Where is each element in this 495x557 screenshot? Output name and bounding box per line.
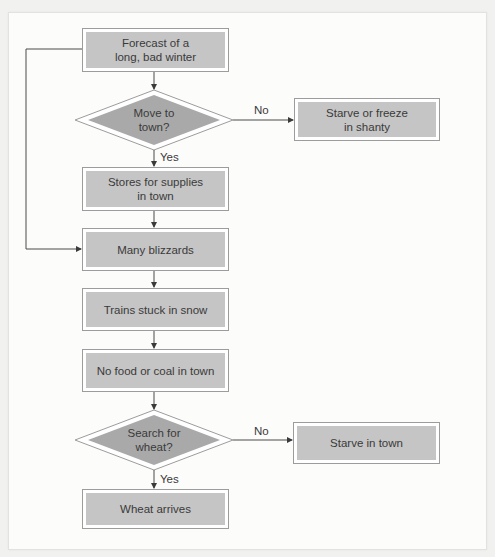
node-move-to-town-line2: town? [134,120,175,134]
edge-label-search-yes: Yes [160,473,179,485]
edge-label-move-no: No [254,104,269,116]
node-forecast-line1: Forecast of a [115,36,196,50]
node-blizzards-label: Many blizzards [86,232,225,267]
node-move-to-town-line1: Move to [134,106,175,120]
edge-label-search-no: No [254,425,269,437]
node-forecast: Forecast of a long, bad winter [82,28,229,72]
node-stores-line1: Stores for supplies [108,175,203,189]
node-stores-line2: in town [108,189,203,203]
node-blizzards: Many blizzards [82,228,229,271]
node-forecast-line2: long, bad winter [115,50,196,64]
node-move-to-town-label: Move to town? [104,106,204,134]
flowchart-connectors [0,0,495,557]
node-trains: Trains stuck in snow [82,288,229,331]
node-stores: Stores for supplies in town [82,167,229,211]
node-starve-or-freeze-line1: Starve or freeze [326,106,408,120]
node-starve-in-town: Starve in town [293,422,440,464]
node-wheat-arrives-label: Wheat arrives [86,493,225,525]
node-search-wheat-line1: Search for [127,426,180,440]
node-search-wheat-label: Search for wheat? [104,426,204,454]
edge-label-move-yes: Yes [160,151,179,163]
node-no-food-label: No food or coal in town [86,353,225,388]
node-wheat-arrives: Wheat arrives [82,489,229,529]
node-search-wheat-line2: wheat? [127,440,180,454]
node-starve-or-freeze-line2: in shanty [326,120,408,134]
node-no-food: No food or coal in town [82,349,229,392]
node-starve-in-town-label: Starve in town [297,426,436,460]
node-trains-label: Trains stuck in snow [86,292,225,327]
node-starve-or-freeze: Starve or freeze in shanty [294,98,440,141]
